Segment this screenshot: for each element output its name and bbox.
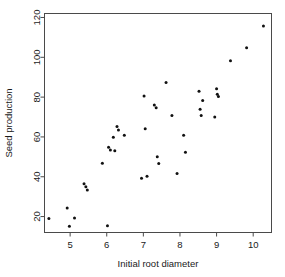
x-tick-label: 8 [177,239,182,250]
data-point [200,114,203,117]
x-axis-ticks: 5678910 [67,233,258,250]
data-point [112,136,115,139]
y-axis-title: Seed production [3,88,14,157]
data-point [123,134,126,137]
data-point [83,182,86,185]
data-point [109,149,112,152]
data-point [153,104,156,107]
y-tick-label: 80 [31,92,42,103]
data-point [157,162,160,165]
data-point [113,149,116,152]
data-point [182,134,185,137]
data-point [176,172,179,175]
y-tick-label: 100 [31,49,42,65]
data-point [198,90,201,93]
plot-border [45,14,272,233]
y-tick-label: 20 [31,211,42,222]
x-tick-label: 10 [248,239,259,250]
plot-canvas: 20406080100120 5678910 Initial root diam… [0,0,285,277]
plot-frame [45,14,272,233]
data-point [115,125,118,128]
x-tick-label: 6 [104,239,109,250]
data-point [106,224,109,227]
data-point [47,217,50,220]
y-axis-ticks: 20406080100120 [31,10,45,222]
data-point [245,46,248,49]
data-point [199,108,202,111]
data-point [170,114,173,117]
x-tick-label: 5 [67,239,72,250]
data-point [156,155,159,158]
data-point [117,128,120,131]
data-point [84,185,87,188]
y-tick-label: 40 [31,171,42,182]
data-point [86,188,89,191]
x-axis-title: Initial root diameter [118,258,199,269]
data-point [101,162,104,165]
data-point [66,207,69,210]
data-point [229,59,232,62]
scatter-plot-figure: 20406080100120 5678910 Initial root diam… [0,0,285,277]
data-point [144,127,147,130]
data-point [262,25,265,28]
data-point [155,106,158,109]
data-point [107,146,110,149]
data-point [215,87,218,90]
data-point [140,177,143,180]
data-point [73,216,76,219]
data-point [184,151,187,154]
data-points-layer [47,25,265,228]
data-point [201,99,204,102]
data-point [165,81,168,84]
data-point [143,94,146,97]
data-point [217,95,220,98]
x-tick-label: 7 [141,239,146,250]
data-point [68,225,71,228]
y-tick-label: 120 [31,10,42,26]
y-tick-label: 60 [31,132,42,143]
data-point [213,116,216,119]
data-point [146,175,149,178]
x-tick-label: 9 [214,239,219,250]
